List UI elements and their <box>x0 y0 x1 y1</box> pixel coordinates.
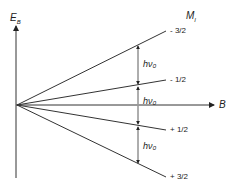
level-line-p1-2 <box>17 105 166 130</box>
level-label: + 1/2 <box>170 125 188 134</box>
x-axis-label: B <box>219 99 226 110</box>
level-label: - 3/2 <box>170 26 186 35</box>
level-label: - 1/2 <box>170 75 186 84</box>
level-label: + 3/2 <box>170 172 188 181</box>
y-axis-label: EB <box>10 12 21 25</box>
splitting-label: hν₀ <box>143 141 156 151</box>
splitting-label: hν₀ <box>143 96 156 106</box>
splitting-label: hν₀ <box>143 59 156 69</box>
column-header: MI <box>186 10 196 23</box>
diagram-lines <box>0 0 237 192</box>
zeeman-diagram: EB B MI - 3/2 - 1/2 + 1/2 + 3/2 hν₀ hν₀ … <box>0 0 237 192</box>
